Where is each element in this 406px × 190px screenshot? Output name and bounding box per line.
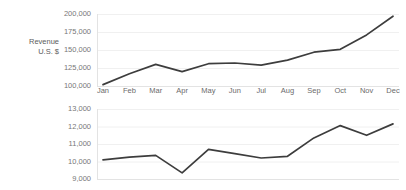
orders-chart-panel: Orders 13,00012,00011,00010,0009,000: [0, 95, 406, 190]
month-tick-apr: Apr: [169, 87, 195, 95]
month-tick-feb: Feb: [116, 87, 142, 95]
orders-plot-area: [0, 95, 406, 190]
month-tick-jan: Jan: [90, 87, 116, 95]
month-tick-jun: Jun: [222, 87, 248, 95]
month-tick-dec: Dec: [380, 87, 406, 95]
month-tick-mar: Mar: [143, 87, 169, 95]
revenue-chart-panel: Revenue U.S. $ 200,000175,000150,000125,…: [0, 0, 406, 95]
two-series-line-chart-figure: Revenue U.S. $ 200,000175,000150,000125,…: [0, 0, 406, 190]
month-tick-may: May: [195, 87, 221, 95]
month-tick-sep: Sep: [301, 87, 327, 95]
month-tick-aug: Aug: [275, 87, 301, 95]
revenue-plot-area: [0, 0, 406, 95]
month-tick-jul: Jul: [248, 87, 274, 95]
month-tick-oct: Oct: [327, 87, 353, 95]
month-tick-nov: Nov: [354, 87, 380, 95]
